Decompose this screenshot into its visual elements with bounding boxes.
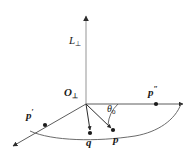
p-double-prime-label-superscript: ″: [154, 85, 158, 94]
origin-label-subscript: ⊥: [72, 92, 78, 100]
angle-label-subscript: 0: [112, 108, 116, 116]
origin-label: O⊥: [64, 87, 78, 100]
origin-label-base: O: [64, 86, 72, 98]
p-prime-label-superscript: ′: [32, 108, 34, 117]
point-q: [88, 131, 92, 135]
p-prime-label: p′: [26, 109, 34, 121]
vector-geometry-figure: L⊥ O⊥ θ0 p″ p′ q p: [0, 0, 196, 156]
p-label: p: [113, 134, 119, 145]
point-p-double-prime: [154, 102, 158, 106]
p-label-base: p: [113, 133, 119, 145]
p-double-prime-label: p″: [148, 86, 158, 98]
cone-base-ellipse-arc: [30, 104, 181, 140]
angle-label: θ0: [107, 104, 115, 116]
point-p-prime: [43, 123, 47, 127]
point-p: [111, 128, 115, 132]
vertical-axis-label: L⊥: [69, 35, 81, 48]
figure-canvas: [0, 0, 196, 156]
vertical-axis-label-subscript: ⊥: [75, 40, 81, 48]
q-label-base: q: [86, 136, 92, 148]
q-label: q: [86, 137, 92, 148]
